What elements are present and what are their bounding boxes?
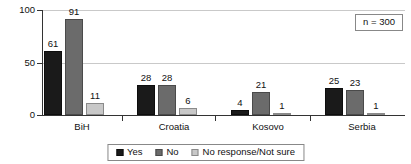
bar-kosovo-no-response[interactable] [273,113,291,115]
bar-label-croatia-no-response: 6 [176,96,200,106]
group-separator-3 [310,116,311,121]
bar-chart: 100 50 0 [0,0,411,164]
bar-serbia-no[interactable] [346,90,364,115]
bar-croatia-yes[interactable] [137,85,155,115]
x-category-label-croatia: Croatia [129,122,219,132]
bars-layer [0,0,411,115]
legend-label-no-response: No response/Not sure [203,147,295,157]
legend-item-yes[interactable]: Yes [116,147,143,157]
bar-label-kosovo-yes: 4 [228,98,252,108]
legend: Yes No No response/Not sure [107,144,304,161]
y-tick-mark-0 [37,115,42,116]
bar-label-bih-no: 91 [62,7,86,17]
group-separator-1 [122,116,123,121]
legend-swatch-no-response-icon [192,149,199,156]
bar-serbia-yes[interactable] [325,88,343,115]
bar-kosovo-no[interactable] [252,92,270,115]
bar-croatia-no[interactable] [158,85,176,115]
bar-label-bih-no-response: 11 [83,91,107,101]
bar-bih-no-response[interactable] [86,103,104,115]
bar-kosovo-yes[interactable] [231,110,249,115]
legend-swatch-no-icon [155,149,162,156]
legend-label-no: No [166,147,178,157]
legend-swatch-yes-icon [116,149,123,156]
bar-bih-yes[interactable] [44,51,62,115]
bar-croatia-no-response[interactable] [179,108,197,115]
x-category-label-kosovo: Kosovo [223,122,313,132]
bar-label-serbia-no-response: 1 [364,101,388,111]
bar-label-kosovo-no-response: 1 [270,101,294,111]
legend-label-yes: Yes [127,147,143,157]
legend-item-no-response[interactable]: No response/Not sure [192,147,295,157]
bar-label-croatia-no: 28 [155,73,179,83]
bar-label-bih-yes: 61 [41,39,65,49]
x-category-label-bih: BiH [37,122,127,132]
bar-bih-no[interactable] [65,19,83,115]
bar-label-kosovo-no: 21 [249,80,273,90]
x-axis-line [42,115,405,116]
sample-size-annotation: n = 300 [355,14,403,31]
plot-area: 100 50 0 [0,0,411,126]
x-category-label-serbia: Serbia [317,122,407,132]
bar-serbia-no-response[interactable] [367,113,385,115]
bar-label-serbia-no: 23 [343,78,367,88]
legend-item-no[interactable]: No [155,147,178,157]
group-separator-2 [215,116,216,121]
